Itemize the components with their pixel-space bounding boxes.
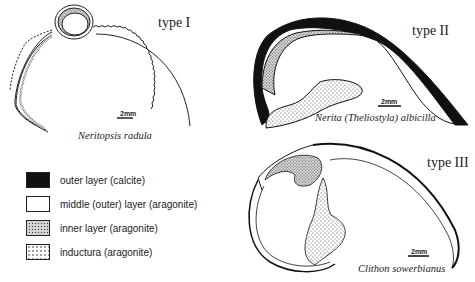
legend-label: inner layer (aragonite) [60, 223, 158, 234]
swatch-solid-black [26, 172, 50, 188]
scale-label-type-1: 2mm [120, 110, 136, 117]
scale-label-type-3: 2mm [411, 248, 427, 255]
scale-label-type-2: 2mm [381, 98, 397, 105]
legend-label: inductura (aragonite) [60, 247, 152, 258]
legend-label: middle (outer) layer (aragonite) [60, 199, 197, 210]
legend-item-inductura: inductura (aragonite) [26, 240, 197, 264]
species-type-1: Neritopsis radula [78, 130, 152, 141]
type-3-label: type III [427, 155, 469, 171]
legend-item-middle-layer: middle (outer) layer (aragonite) [26, 192, 197, 216]
type-2-label: type II [412, 23, 449, 39]
species-type-3: Clithon sowerbianus [358, 263, 445, 274]
swatch-white [26, 196, 50, 212]
legend-item-inner-layer: inner layer (aragonite) [26, 216, 197, 240]
legend-label: outer layer (calcite) [60, 175, 145, 186]
type-1-label: type I [158, 15, 190, 31]
swatch-sparse-stipple [26, 244, 50, 260]
legend: outer layer (calcite) middle (outer) lay… [26, 168, 197, 264]
legend-item-outer-layer: outer layer (calcite) [26, 168, 197, 192]
species-type-2: Nerita (Theliostyla) albicilla [315, 112, 436, 123]
swatch-dense-stipple [26, 220, 50, 236]
